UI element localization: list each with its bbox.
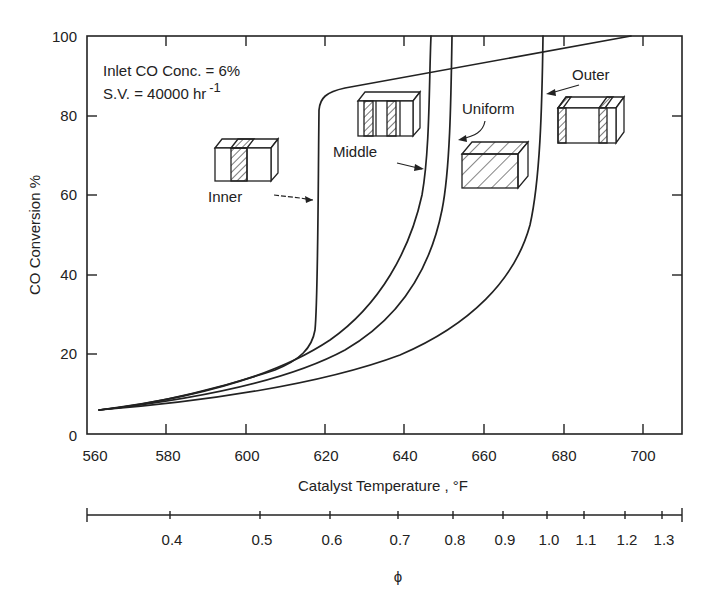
- chart: 100 80 60 40 20 0 CO Conversion % 560 58…: [0, 0, 706, 602]
- svg-text:1.3: 1.3: [654, 531, 675, 548]
- svg-text:1.0: 1.0: [539, 531, 560, 548]
- svg-text:620: 620: [313, 447, 338, 464]
- svg-text:600: 600: [234, 447, 259, 464]
- x-tick-labels: 560 580 600 620 640 660 680 700: [82, 447, 655, 464]
- svg-text:560: 560: [82, 447, 107, 464]
- svg-text:660: 660: [471, 447, 496, 464]
- inner-label: Inner: [208, 188, 242, 205]
- svg-text:0.7: 0.7: [390, 531, 411, 548]
- svg-text:0.5: 0.5: [252, 531, 273, 548]
- uniform-arrow-icon: [458, 135, 467, 142]
- uniform-label: Uniform: [462, 100, 515, 117]
- svg-text:0.8: 0.8: [445, 531, 466, 548]
- phi-tick-labels: 0.4 0.5 0.6 0.7 0.8 0.9 1.0 1.1 1.2 1.3: [162, 531, 675, 548]
- middle-label: Middle: [333, 143, 377, 160]
- outer-label: Outer: [572, 66, 610, 83]
- svg-text:1.2: 1.2: [617, 531, 638, 548]
- inlet-conc-annotation: Inlet CO Conc. = 6%: [103, 62, 240, 79]
- phi-axis: [87, 508, 682, 522]
- svg-text:40: 40: [60, 266, 77, 283]
- svg-text:1.1: 1.1: [576, 531, 597, 548]
- y-tick-labels: 100 80 60 40 20 0: [52, 28, 77, 444]
- svg-text:20: 20: [60, 345, 77, 362]
- svg-text:640: 640: [392, 447, 417, 464]
- svg-text:580: 580: [155, 447, 180, 464]
- svg-text:0.6: 0.6: [322, 531, 343, 548]
- uniform-catalyst-icon: [462, 142, 528, 188]
- svg-text:700: 700: [630, 447, 655, 464]
- svg-text:0.9: 0.9: [495, 531, 516, 548]
- svg-text:0: 0: [69, 427, 77, 444]
- inner-catalyst-icon: [215, 139, 278, 181]
- svg-text:60: 60: [60, 186, 77, 203]
- space-velocity-annotation: S.V. = 40000 hr-1: [103, 80, 221, 102]
- outer-catalyst-icon: [558, 97, 624, 143]
- x-axis-title: Catalyst Temperature , °F: [298, 477, 468, 494]
- svg-text:680: 680: [551, 447, 576, 464]
- y-axis: [87, 116, 682, 354]
- outer-arrow-icon: [546, 89, 556, 96]
- y-axis-title: CO Conversion %: [26, 175, 43, 295]
- middle-arrow-icon: [414, 164, 424, 171]
- svg-text:80: 80: [60, 107, 77, 124]
- middle-catalyst-icon: [358, 92, 420, 136]
- svg-text:100: 100: [52, 28, 77, 45]
- phi-axis-title: ϕ: [394, 568, 402, 585]
- svg-text:0.4: 0.4: [162, 531, 183, 548]
